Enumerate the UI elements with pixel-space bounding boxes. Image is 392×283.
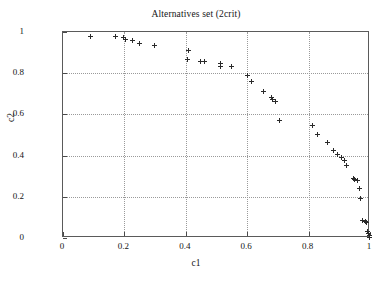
chart-title: Alternatives set (2crit): [0, 9, 392, 19]
y-axis-label: c2: [6, 113, 16, 122]
data-point: [342, 158, 347, 163]
x-axis-tick: [247, 232, 248, 236]
data-point: [270, 97, 275, 102]
data-point: [152, 43, 157, 48]
gridline-vertical: [186, 32, 187, 236]
data-point: [310, 123, 315, 128]
data-point: [261, 89, 266, 94]
y-axis-tick: [63, 238, 67, 239]
y-axis-tick: [63, 156, 67, 157]
y-axis-tick: [63, 197, 67, 198]
data-point: [315, 132, 320, 137]
x-axis-tick-label: 0.4: [179, 241, 190, 251]
gridline-horizontal: [63, 197, 368, 198]
y-axis-tick: [63, 114, 67, 115]
data-point: [352, 177, 357, 182]
gridline-horizontal: [63, 73, 368, 74]
x-axis-tick: [370, 232, 371, 236]
gridline-vertical: [124, 32, 125, 236]
x-axis-tick-label: 0.6: [241, 241, 252, 251]
data-point: [218, 61, 223, 66]
data-point: [363, 219, 368, 224]
x-axis-tick-label: 0.8: [302, 241, 313, 251]
y-axis-tick: [63, 73, 67, 74]
y-axis-tick-label: 0.2: [13, 191, 24, 201]
y-axis-tick-label: 0.8: [13, 67, 24, 77]
x-axis-tick-label: 0: [60, 241, 65, 251]
data-point: [360, 218, 365, 223]
data-point: [202, 59, 207, 64]
x-axis-label: c1: [0, 258, 392, 268]
data-point: [364, 220, 369, 225]
data-point: [249, 79, 254, 84]
y-axis-tick: [63, 32, 67, 33]
data-point: [344, 163, 349, 168]
data-point: [277, 118, 282, 123]
data-point: [198, 59, 203, 64]
data-point: [113, 34, 118, 39]
x-axis-tick: [186, 232, 187, 236]
chart-figure: Alternatives set (2crit) 00.20.40.60.810…: [0, 0, 392, 283]
data-point: [355, 178, 360, 183]
x-axis-tick-label: 1: [367, 241, 372, 251]
data-point: [325, 140, 330, 145]
data-point: [229, 64, 234, 69]
y-axis-tick-label: 1: [20, 26, 25, 36]
data-point: [269, 95, 274, 100]
data-point: [137, 41, 142, 46]
gridline-vertical: [247, 32, 248, 236]
x-axis-tick: [309, 232, 310, 236]
gridline-vertical: [309, 32, 310, 236]
data-point: [357, 186, 362, 191]
x-axis-tick: [124, 232, 125, 236]
x-axis-tick: [63, 232, 64, 236]
data-point: [273, 99, 278, 104]
data-point: [130, 38, 135, 43]
plot-area: [62, 31, 369, 237]
x-axis-tick-label: 0.2: [118, 241, 129, 251]
data-point: [331, 148, 336, 153]
data-point: [351, 176, 356, 181]
gridline-horizontal: [63, 114, 368, 115]
y-axis-tick-label: 0: [20, 232, 25, 242]
y-axis-tick-label: 0.4: [13, 150, 24, 160]
data-point: [88, 34, 93, 39]
gridline-horizontal: [63, 156, 368, 157]
data-point: [218, 64, 223, 69]
